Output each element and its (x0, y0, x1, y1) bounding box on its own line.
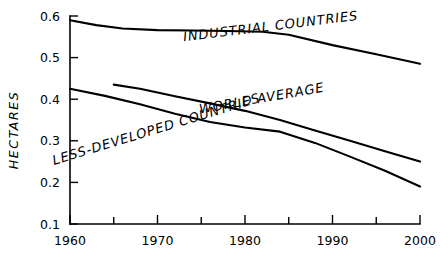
y-tick-label: 0.3 (40, 133, 60, 148)
axes-group (70, 16, 420, 224)
y-tick-label: 0.6 (40, 9, 60, 24)
series-inline-labels: INDUSTRIAL COUNTRIESWORLD AVERAGELESS-DE… (51, 8, 359, 168)
y-axis-title: HECTARES (6, 91, 21, 169)
y-tick-label: 0.4 (40, 92, 60, 107)
x-tick-label: 1980 (229, 233, 261, 248)
chart-canvas: 0.10.20.30.40.50.6 19601970198019902000 … (0, 0, 448, 274)
y-tick-label: 0.2 (40, 175, 60, 190)
hectares-per-capita-line-chart: 0.10.20.30.40.50.6 19601970198019902000 … (0, 0, 448, 274)
y-axis-tick-labels: 0.10.20.30.40.50.6 (40, 9, 60, 232)
series-label: INDUSTRIAL COUNTRIES (182, 8, 359, 44)
y-tick-label: 0.5 (40, 50, 60, 65)
x-axis-ticks (70, 215, 420, 224)
x-tick-label: 2000 (404, 233, 436, 248)
x-tick-label: 1990 (317, 233, 349, 248)
x-axis-tick-labels: 19601970198019902000 (54, 233, 436, 248)
y-axis-ticks (70, 16, 78, 224)
x-tick-label: 1970 (142, 233, 174, 248)
y-tick-label: 0.1 (40, 217, 60, 232)
x-tick-label: 1960 (54, 233, 86, 248)
series-label: LESS-DEVELOPED COUNTRIES (51, 90, 262, 168)
